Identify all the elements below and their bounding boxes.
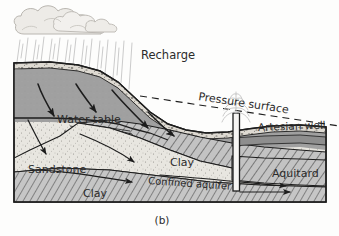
label-recharge: Recharge [141,48,195,62]
label-water-table: Water table [57,113,121,126]
label-sandstone: Sandstone [28,163,86,176]
label-artesian-well: Artesian well [258,119,326,133]
label-clay-lower: Clay [83,187,107,200]
label-pressure-surface: Pressure surface [198,90,290,116]
label-clay-upper: Clay [170,156,194,169]
cloud-icon [14,6,117,34]
well-pipe[interactable] [233,113,240,191]
label-aquitard: Aquitard [272,167,319,180]
cross-section-canvas: Recharge Pressure surface Artesian well … [0,0,339,236]
figure-caption: (b) [155,214,170,226]
hydrogeology-figure: Recharge Pressure surface Artesian well … [0,0,339,236]
